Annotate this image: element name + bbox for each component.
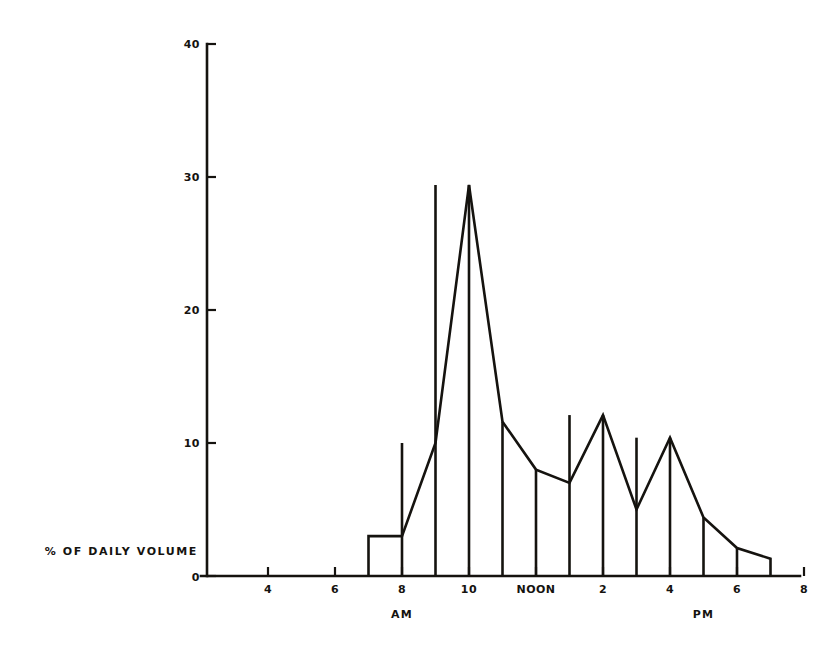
y-axis-tick-label: 40 <box>184 38 200 51</box>
y-axis-tick-label: 30 <box>184 171 200 184</box>
x-axis-tick-label: NOON <box>516 583 555 596</box>
x-axis-period-labels: AMPM <box>391 608 714 621</box>
x-axis-tick-label: 2 <box>599 583 607 596</box>
chart-figure: 10203040 46810NOON2468 AMPM 0 % OF DAILY… <box>0 0 839 646</box>
x-axis-tick-label: 6 <box>331 583 339 596</box>
x-axis-tick-labels: 46810NOON2468 <box>264 583 808 596</box>
x-axis-tick-label: 4 <box>264 583 272 596</box>
y-axis-title: % OF DAILY VOLUME <box>45 545 198 558</box>
x-axis-tick-label: 10 <box>461 583 477 596</box>
histogram-bars <box>369 185 771 576</box>
y-axis-tick-label: 10 <box>184 437 200 450</box>
x-axis-period-label: AM <box>391 608 413 621</box>
x-axis-tick-label: 8 <box>800 583 808 596</box>
x-axis-origin-label: 0 <box>192 571 200 584</box>
volume-histogram-svg: 10203040 46810NOON2468 AMPM 0 % OF DAILY… <box>0 0 839 646</box>
y-axis-tick-labels: 10203040 <box>184 38 200 450</box>
x-axis-tick-label: 4 <box>666 583 674 596</box>
x-axis-tick-label: 8 <box>398 583 406 596</box>
y-axis-ticks <box>207 44 216 576</box>
y-axis-tick-label: 20 <box>184 304 200 317</box>
x-axis-period-label: PM <box>693 608 714 621</box>
x-axis-tick-label: 6 <box>733 583 741 596</box>
